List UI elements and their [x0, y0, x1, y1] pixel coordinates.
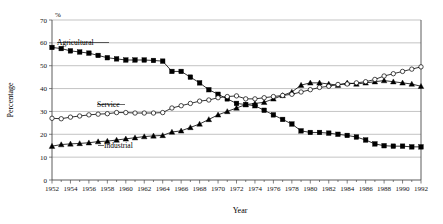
marker-square [299, 129, 304, 134]
series-label-industrial: Industrial [104, 141, 133, 150]
y-axis-title: Percentage [6, 82, 15, 118]
marker-circle [271, 94, 275, 98]
x-tick-label-1964: 1964 [156, 185, 171, 193]
marker-circle [280, 93, 284, 97]
marker-circle [327, 84, 331, 88]
y-tick-labels-group: 010203040506070 [40, 17, 48, 185]
marker-square [77, 50, 82, 55]
x-axis-title: Year [233, 206, 248, 215]
marker-square [419, 145, 424, 150]
marker-circle [225, 94, 229, 98]
x-tick-label-1992: 1992 [414, 185, 429, 193]
marker-square [345, 133, 350, 138]
marker-square [142, 58, 147, 63]
x-tick-labels-group: 1952195419561958196019621964196619681970… [45, 185, 429, 193]
marker-circle [290, 92, 294, 96]
x-tick-label-1978: 1978 [285, 185, 300, 193]
y-tick-label-60: 60 [40, 39, 48, 47]
marker-circle [363, 80, 367, 84]
marker-circle [262, 96, 266, 100]
marker-square [409, 145, 414, 150]
marker-circle [299, 90, 303, 94]
marker-circle [244, 97, 248, 101]
marker-circle [77, 114, 81, 118]
employment-by-sector-chart: 010203040506070 195219541956195819601962… [0, 0, 443, 224]
marker-circle [216, 96, 220, 100]
y-tick-label-10: 10 [40, 154, 48, 162]
marker-square [290, 122, 295, 127]
marker-circle [133, 111, 137, 115]
marker-circle [179, 104, 183, 108]
marker-triangle [206, 117, 212, 122]
series-group [49, 45, 424, 149]
marker-square [87, 51, 92, 56]
marker-square [326, 131, 331, 136]
marker-circle [317, 85, 321, 89]
marker-square [170, 69, 175, 74]
marker-square [68, 49, 73, 54]
marker-square [197, 81, 202, 86]
marker-circle [87, 113, 91, 117]
y-tick-label-40: 40 [40, 85, 48, 93]
marker-square [160, 59, 165, 64]
marker-square [179, 69, 184, 74]
marker-circle [391, 72, 395, 76]
gridlines-group [52, 20, 421, 157]
marker-circle [207, 98, 211, 102]
y-tick-label-20: 20 [40, 131, 48, 139]
marker-circle [96, 112, 100, 116]
x-tick-label-1952: 1952 [45, 185, 60, 193]
marker-square [207, 87, 212, 92]
marker-triangle [188, 125, 194, 130]
x-tick-label-1968: 1968 [193, 185, 208, 193]
marker-square [96, 53, 101, 58]
marker-circle [253, 97, 257, 101]
marker-circle [345, 82, 349, 86]
marker-square [363, 138, 368, 143]
marker-triangle [178, 128, 184, 133]
marker-circle [170, 106, 174, 110]
marker-circle [59, 117, 63, 121]
marker-circle [308, 88, 312, 92]
x-tick-label-1984: 1984 [340, 185, 355, 193]
x-tick-label-1982: 1982 [322, 185, 337, 193]
y-tick-label-70: 70 [40, 17, 48, 25]
marker-square [280, 117, 285, 122]
x-tick-label-1980: 1980 [303, 185, 318, 193]
x-tick-label-1974: 1974 [248, 185, 263, 193]
marker-square [105, 55, 110, 60]
y-tick-label-50: 50 [40, 62, 48, 70]
marker-circle [400, 69, 404, 73]
marker-circle [419, 65, 423, 69]
x-tick-label-1956: 1956 [82, 185, 97, 193]
marker-circle [161, 110, 165, 114]
y-tick-label-0: 0 [44, 177, 48, 185]
marker-square [391, 144, 396, 149]
marker-circle [382, 74, 386, 78]
marker-circle [197, 99, 201, 103]
x-tick-label-1976: 1976 [266, 185, 281, 193]
marker-square [50, 45, 55, 50]
marker-triangle [215, 112, 221, 117]
marker-circle [50, 116, 54, 120]
marker-triangle [197, 121, 203, 126]
x-tick-label-1958: 1958 [100, 185, 115, 193]
series-line-service [52, 67, 421, 119]
x-tick-label-1972: 1972 [230, 185, 245, 193]
chart-container: 010203040506070 195219541956195819601962… [0, 0, 443, 224]
marker-circle [188, 101, 192, 105]
series-label-service: Service [97, 100, 120, 109]
x-tick-label-1960: 1960 [119, 185, 134, 193]
series-label-agricultural: Agricultural [57, 38, 94, 47]
x-tick-label-1962: 1962 [137, 185, 152, 193]
marker-circle [373, 77, 377, 81]
marker-square [151, 58, 156, 63]
x-tick-label-1954: 1954 [63, 185, 78, 193]
marker-square [373, 142, 378, 147]
marker-square [114, 57, 119, 62]
marker-square [262, 108, 267, 113]
marker-square [271, 113, 276, 118]
marker-circle [234, 94, 238, 98]
marker-circle [410, 67, 414, 71]
marker-circle [151, 111, 155, 115]
